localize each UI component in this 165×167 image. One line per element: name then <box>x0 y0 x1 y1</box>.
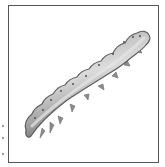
caterpillar-body <box>25 31 149 137</box>
caterpillar-illustration <box>0 0 165 167</box>
